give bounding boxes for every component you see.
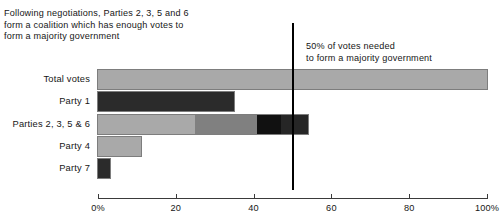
bar-party-4 xyxy=(98,137,141,156)
bar-party-2 xyxy=(98,115,308,134)
axis-tick-label: 80 xyxy=(404,203,415,214)
axis-tick xyxy=(331,194,332,199)
bar-segment-party-5 xyxy=(257,115,280,134)
bar-segment-party-1 xyxy=(98,92,234,111)
axis-tick-label: 100% xyxy=(475,203,499,214)
category-axis-labels: Total votesParty 1Parties 2, 3, 5 & 6Par… xyxy=(8,70,98,190)
axis-tick-label: 0% xyxy=(91,203,105,214)
bar-segment-party-6 xyxy=(281,115,308,134)
axis-tick xyxy=(409,194,410,199)
majority-threshold-line xyxy=(292,23,294,190)
axis-tick xyxy=(487,194,488,199)
bar-segment-party-3 xyxy=(195,115,257,134)
axis-tick xyxy=(98,194,99,199)
category-label-party-7: Party 7 xyxy=(0,163,90,174)
chart-container: Following negotiations, Parties 2, 3, 5 … xyxy=(0,0,502,222)
axis-tick-label: 40 xyxy=(248,203,259,214)
axis-tick-label: 20 xyxy=(171,203,182,214)
bar-segment-party-7 xyxy=(98,159,110,178)
axis-tick-label: 60 xyxy=(326,203,337,214)
plot-area: Total votesParty 1Parties 2, 3, 5 & 6Par… xyxy=(98,70,487,190)
bar-party-7 xyxy=(98,159,110,178)
axis-tick xyxy=(176,194,177,199)
category-label-total-votes: Total votes xyxy=(0,74,90,85)
category-label-party-1: Party 1 xyxy=(0,96,90,107)
value-axis: 0%20406080100% xyxy=(98,198,487,199)
bar-segment-party-4 xyxy=(98,137,141,156)
bar-segment-party-2 xyxy=(98,115,195,134)
category-label-party-2: Parties 2, 3, 5 & 6 xyxy=(0,119,90,130)
bar-party-1 xyxy=(98,92,234,111)
coalition-annotation: Following negotiations, Parties 2, 3, 5 … xyxy=(4,8,234,43)
category-label-party-4: Party 4 xyxy=(0,141,90,152)
majority-threshold-annotation: 50% of votes needed to form a majority g… xyxy=(306,41,496,64)
axis-tick xyxy=(254,194,255,199)
